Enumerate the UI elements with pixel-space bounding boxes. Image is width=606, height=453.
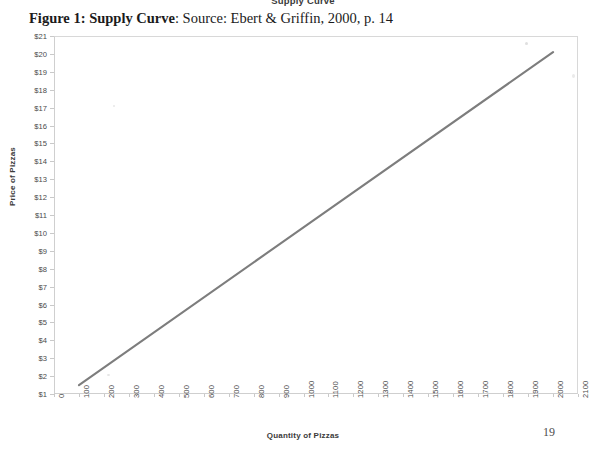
scan-speck-icon xyxy=(113,105,115,107)
x-axis-tick-mark xyxy=(478,394,479,397)
x-axis-tick-mark xyxy=(254,394,255,397)
y-axis-tick-label: $2 xyxy=(39,372,47,381)
y-axis-tick-label: $5 xyxy=(39,318,47,327)
scan-speck-icon xyxy=(525,42,528,45)
x-axis-tick-mark xyxy=(353,394,354,397)
y-axis-tick-label: $18 xyxy=(34,85,47,94)
x-axis-tick-mark xyxy=(403,394,404,397)
supply-line-path xyxy=(79,52,553,385)
x-axis-tick-mark xyxy=(54,394,55,397)
y-axis-tick-label: $10 xyxy=(34,228,47,237)
y-axis-tick-label: $11 xyxy=(35,211,47,220)
x-axis-tick-mark xyxy=(503,394,504,397)
x-axis-tick-label: 0 xyxy=(57,394,66,398)
y-axis-tick-label: $7 xyxy=(39,282,47,291)
y-axis-tick-label: $3 xyxy=(39,354,47,363)
x-axis-tick-mark xyxy=(129,394,130,397)
x-axis-tick-mark xyxy=(378,394,379,397)
y-axis-title: Price of Pizzas xyxy=(8,127,17,227)
x-axis-tick-mark xyxy=(279,394,280,397)
y-axis-tick-label: $4 xyxy=(39,336,47,345)
page-number-artifact: 19 xyxy=(543,425,555,440)
x-axis-tick-mark xyxy=(154,394,155,397)
x-axis-tick-mark xyxy=(79,394,80,397)
y-axis-tick-label: $9 xyxy=(39,246,47,255)
x-axis-tick-mark xyxy=(229,394,230,397)
series-supply-line xyxy=(54,36,578,394)
x-axis-tick-mark xyxy=(428,394,429,397)
y-axis-tick-label: $19 xyxy=(34,67,47,76)
y-axis-tick-label: $20 xyxy=(34,49,47,58)
x-axis-tick-mark xyxy=(304,394,305,397)
scan-speck-icon xyxy=(107,374,110,376)
y-axis-tick-label: $21 xyxy=(34,32,47,41)
y-axis-tick-label: $8 xyxy=(39,264,47,273)
supply-curve-chart: $1$2$3$4$5$6$7$8$9$10$11$12$13$14$15$16$… xyxy=(0,0,606,453)
x-axis-tick-label: 2100 xyxy=(581,381,590,398)
x-axis-tick-mark xyxy=(179,394,180,397)
y-axis-tick-label: $16 xyxy=(34,121,47,130)
y-axis-tick-group: $1$2$3$4$5$6$7$8$9$10$11$12$13$14$15$16$… xyxy=(0,0,54,453)
y-axis-tick-label: $1 xyxy=(39,390,47,399)
y-axis-tick-label: $13 xyxy=(34,175,47,184)
y-axis-tick-label: $12 xyxy=(34,193,47,202)
x-axis-tick-mark xyxy=(204,394,205,397)
y-axis-tick-label: $6 xyxy=(39,300,47,309)
x-axis-tick-mark xyxy=(453,394,454,397)
x-axis-tick-mark xyxy=(578,394,579,397)
x-axis-title: Quantity of Pizzas xyxy=(0,431,606,440)
scan-speck-icon xyxy=(572,74,575,78)
x-axis-tick-mark xyxy=(104,394,105,397)
y-axis-tick-label: $17 xyxy=(34,103,47,112)
y-axis-tick-label: $14 xyxy=(34,157,47,166)
x-axis-tick-mark xyxy=(528,394,529,397)
y-axis-tick-label: $15 xyxy=(34,139,47,148)
x-axis-tick-mark xyxy=(553,394,554,397)
x-axis-tick-mark xyxy=(328,394,329,397)
